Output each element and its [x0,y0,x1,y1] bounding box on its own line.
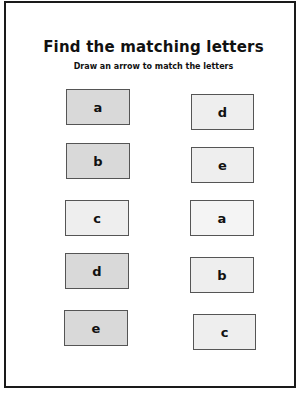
letter-label: c [221,325,229,340]
letter-label: e [92,321,101,336]
left-letter-box-a[interactable]: a [66,89,130,125]
left-letter-box-c[interactable]: c [65,200,129,236]
right-letter-box-d[interactable]: d [191,94,254,130]
letter-label: d [218,105,227,120]
letter-label: e [218,158,227,173]
letter-label: b [93,154,102,169]
worksheet-title: Find the matching letters [0,38,307,56]
left-letter-box-e[interactable]: e [64,310,128,346]
right-letter-box-c[interactable]: c [193,314,256,350]
letter-label: b [217,268,226,283]
letter-label: a [94,100,103,115]
right-letter-box-b[interactable]: b [190,257,254,293]
letter-label: a [218,211,227,226]
worksheet-instruction: Draw an arrow to match the letters [0,62,307,71]
left-letter-box-b[interactable]: b [66,143,130,179]
left-letter-box-d[interactable]: d [65,253,129,289]
right-letter-box-a[interactable]: a [190,200,254,236]
letter-label: c [93,211,101,226]
right-letter-box-e[interactable]: e [191,147,254,183]
letter-label: d [92,264,101,279]
